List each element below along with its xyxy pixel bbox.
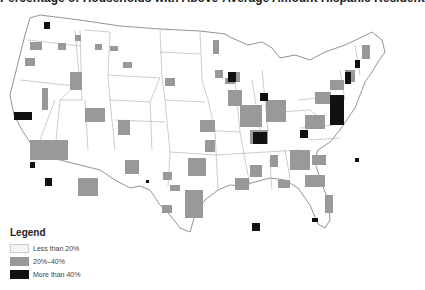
swatch-high <box>10 270 29 279</box>
legend-item-high: More than 40% <box>10 268 80 281</box>
legend: Legend Less than 20% 20%–40% More than 4… <box>10 227 80 281</box>
legend-item-low: Less than 20% <box>10 242 80 255</box>
legend-label: More than 40% <box>33 271 80 278</box>
legend-label: 20%–40% <box>33 258 65 265</box>
legend-item-mid: 20%–40% <box>10 255 80 268</box>
legend-title: Legend <box>10 227 80 238</box>
legend-label: Less than 20% <box>33 245 79 252</box>
swatch-low <box>10 244 29 253</box>
swatch-mid <box>10 257 29 266</box>
